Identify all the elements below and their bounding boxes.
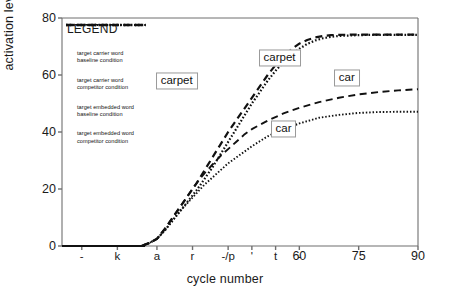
legend-key-0 xyxy=(72,43,152,49)
legend-text-line1-3: target embedded word xyxy=(77,130,162,137)
legend-key-2 xyxy=(72,97,152,103)
curve-label-carpet-0: carpet xyxy=(156,72,198,89)
curve-label-carpet-1: carpet xyxy=(259,49,301,66)
curve-label-car-2: car xyxy=(334,69,360,86)
legend-entries: target carrier wordbaseline conditiontar… xyxy=(66,43,162,145)
legend-text-line1-2: target embedded word xyxy=(77,104,162,111)
legend-entry-2: target embedded wordbaseline condition xyxy=(66,97,162,119)
legend-entry-0: target carrier wordbaseline condition xyxy=(66,43,162,65)
legend-key-1 xyxy=(72,70,152,76)
chart-legend: LEGEND target carrier wordbaseline condi… xyxy=(66,22,162,150)
legend-entry-1: target carrier wordcompetitor condition xyxy=(66,70,162,92)
curve-label-car-3: car xyxy=(271,121,297,138)
legend-text-line1-0: target carrier word xyxy=(77,50,162,57)
legend-text-line2-2: baseline condition xyxy=(77,111,162,118)
legend-text-line2-3: competitor condition xyxy=(77,138,162,145)
legend-text-line1-1: target carrier word xyxy=(77,77,162,84)
legend-text-line2-1: competitor condition xyxy=(77,84,162,91)
legend-text-line2-0: baseline condition xyxy=(77,57,162,64)
legend-key-3 xyxy=(72,123,152,129)
legend-entry-3: target embedded wordcompetitor condition xyxy=(66,123,162,145)
